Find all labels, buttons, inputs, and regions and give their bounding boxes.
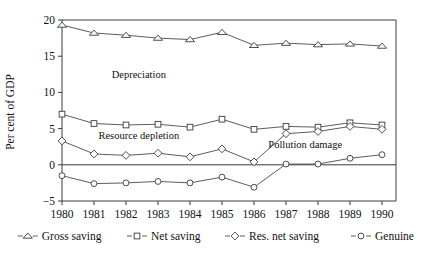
x-axis-ticks: 1980198119821983198419851986198719881989… — [51, 201, 394, 220]
data-point — [186, 153, 194, 161]
data-point — [219, 116, 225, 122]
legend-circle-icon — [358, 233, 364, 239]
plot-border — [62, 20, 396, 201]
data-point — [90, 150, 98, 158]
data-point — [251, 184, 257, 190]
legend-square-icon — [134, 233, 140, 239]
data-point — [283, 161, 289, 167]
legend-triangle-icon — [23, 233, 32, 238]
data-point — [57, 22, 66, 27]
data-point — [187, 124, 193, 130]
series-genuine — [59, 152, 385, 190]
y-tick-label: −5 — [43, 195, 55, 207]
legend-label: Net saving — [151, 230, 201, 243]
annotation-resource-depletion: Resource depletion — [98, 130, 180, 141]
data-point — [59, 173, 65, 179]
legend-item-res-net-saving[interactable]: Res. net saving — [225, 230, 319, 243]
legend-item-gross-saving[interactable]: Gross saving — [18, 230, 102, 243]
data-point — [219, 174, 225, 180]
data-point — [218, 145, 226, 153]
chart-legend: Gross savingNet savingRes. net savingGen… — [18, 230, 414, 243]
legend-item-genuine[interactable]: Genuine — [351, 230, 414, 242]
data-point — [122, 151, 130, 159]
annotation-pollution-damage: Pollution damage — [268, 139, 342, 150]
data-point — [379, 152, 385, 158]
plot-frame — [62, 20, 396, 201]
series-path — [62, 25, 382, 46]
x-tick-label: 1988 — [307, 208, 330, 220]
y-tick-label: 15 — [44, 50, 56, 62]
data-point — [217, 29, 226, 34]
data-point — [123, 122, 129, 128]
x-tick-label: 1983 — [147, 208, 170, 220]
x-tick-label: 1985 — [211, 208, 234, 220]
plot-annotations: DepreciationResource depletionPollution … — [98, 69, 342, 150]
y-axis-ticks: −505101520 — [43, 14, 62, 207]
data-point — [315, 161, 321, 167]
y-tick-label: 5 — [49, 123, 55, 135]
legend-label: Res. net saving — [249, 230, 319, 243]
y-tick-label: 0 — [49, 159, 55, 171]
data-point — [283, 124, 289, 130]
annotation-depreciation: Depreciation — [112, 69, 167, 80]
data-point — [123, 180, 129, 186]
data-point — [251, 126, 257, 132]
x-tick-label: 1987 — [275, 208, 298, 220]
data-point — [59, 111, 65, 117]
legend-diamond-icon — [231, 232, 239, 240]
data-point — [187, 180, 193, 186]
data-point — [58, 137, 66, 145]
data-point — [345, 41, 354, 46]
data-point — [155, 179, 161, 185]
data-point — [154, 149, 162, 157]
legend-label: Genuine — [375, 230, 414, 242]
data-point — [347, 155, 353, 161]
data-point — [281, 40, 290, 45]
savings-line-chart: Per cent of GDP −505101520 1980198119821… — [0, 0, 426, 254]
data-point — [91, 121, 97, 127]
series-path — [62, 155, 382, 188]
legend-item-net-saving[interactable]: Net saving — [127, 230, 201, 243]
y-tick-label: 10 — [44, 86, 56, 98]
x-tick-label: 1981 — [83, 208, 106, 220]
x-tick-label: 1980 — [51, 208, 74, 220]
x-tick-label: 1984 — [179, 208, 202, 220]
legend-label: Gross saving — [42, 230, 102, 243]
y-tick-label: 20 — [44, 14, 56, 26]
x-tick-label: 1982 — [115, 208, 138, 220]
data-point — [155, 121, 161, 127]
y-axis-title: Per cent of GDP — [4, 74, 16, 150]
data-point — [91, 181, 97, 187]
x-tick-label: 1989 — [339, 208, 362, 220]
x-tick-label: 1990 — [371, 208, 394, 220]
series-gross-saving — [57, 22, 386, 48]
chart-figure: Per cent of GDP −505101520 1980198119821… — [0, 0, 426, 254]
x-tick-label: 1986 — [243, 208, 266, 220]
